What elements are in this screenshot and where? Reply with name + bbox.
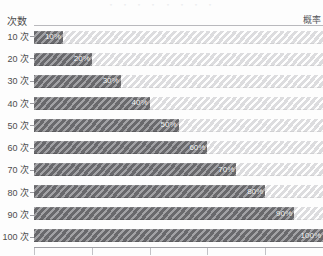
y-axis-tick-label: 30 次 <box>7 74 29 87</box>
bar-fill-segment: 20% <box>34 53 92 66</box>
x-tick-mark-icon <box>265 248 266 255</box>
bar-remainder-segment <box>294 207 323 220</box>
bar-value-label: 10% <box>45 33 63 41</box>
bar-remainder-segment <box>63 31 323 44</box>
bar-row: 60% <box>34 141 323 154</box>
y-axis-tick-labels: 10 次 20 次 30 次 40 次 50 次 60 次 70 次 80 次 … <box>0 25 34 248</box>
bar-remainder-segment <box>265 185 323 198</box>
bar-fill-segment: 90% <box>34 207 294 220</box>
y-axis-tick-label: 100 次 <box>2 230 29 243</box>
y-axis-tick: 90 次 <box>0 208 34 221</box>
y-axis-tick: 10 次 <box>0 30 34 43</box>
bar-fill-segment: 10% <box>34 31 63 44</box>
y-axis-tick: 40 次 <box>0 97 34 110</box>
bar-value-label: 50% <box>160 121 178 129</box>
y-axis-tick-label: 70 次 <box>7 163 29 176</box>
bar-row: 30% <box>34 75 323 88</box>
bar-fill-segment: 100% <box>34 229 323 242</box>
x-tick-mark-icon <box>150 248 151 255</box>
bar-remainder-segment <box>179 119 323 132</box>
y-axis-tick-label: 40 次 <box>7 97 29 110</box>
x-axis-ticks <box>34 248 323 256</box>
bar-value-label: 100% <box>301 232 323 240</box>
bar-remainder-segment <box>121 75 323 88</box>
bar-value-label: 40% <box>132 99 150 107</box>
bar-value-label: 30% <box>103 77 121 85</box>
bar-value-label: 90% <box>276 210 294 218</box>
bar-fill-segment: 40% <box>34 97 150 110</box>
y-axis-tick: 60 次 <box>0 141 34 154</box>
y-axis-tick: 20 次 <box>0 52 34 65</box>
y-axis-tick-label: 90 次 <box>7 208 29 221</box>
bar-row: 70% <box>34 163 323 176</box>
bar-value-label: 60% <box>189 144 207 152</box>
y-axis-tick-label: 50 次 <box>7 119 29 132</box>
bar-row: 90% <box>34 207 323 220</box>
bar-row: 40% <box>34 97 323 110</box>
y-axis-tick-label: 80 次 <box>7 186 29 199</box>
x-tick-mark-icon <box>92 248 93 255</box>
bar-row: 10% <box>34 31 323 44</box>
bar-remainder-segment <box>236 163 323 176</box>
y-axis-tick: 100 次 <box>0 230 34 243</box>
plot-area: 10% 20% 30% 40% 50% 60% <box>34 25 323 248</box>
bar-remainder-segment <box>207 141 323 154</box>
bar-fill-segment: 50% <box>34 119 179 132</box>
bar-value-label: 20% <box>74 55 92 63</box>
bar-value-label: 70% <box>218 166 236 174</box>
y-axis-tick: 80 次 <box>0 186 34 199</box>
x-tick-mark-icon <box>207 248 208 255</box>
x-tick-mark-icon <box>34 248 35 255</box>
bar-value-label: 80% <box>247 188 265 196</box>
bar-row: 100% <box>34 229 323 242</box>
chart-page: ・ ・ ・ ・ ・ ・ ・ ・ 次数 概率 10 次 20 次 30 次 40 … <box>0 0 323 256</box>
y-axis-tick: 50 次 <box>0 119 34 132</box>
y-axis-tick-label: 10 次 <box>7 30 29 43</box>
bar-fill-segment: 30% <box>34 75 121 88</box>
y-axis-tick-label: 60 次 <box>7 141 29 154</box>
bar-row: 20% <box>34 53 323 66</box>
y-axis-tick-label: 20 次 <box>7 52 29 65</box>
bar-fill-segment: 60% <box>34 141 207 154</box>
bar-remainder-segment <box>92 53 323 66</box>
bar-row: 50% <box>34 119 323 132</box>
bar-row: 80% <box>34 185 323 198</box>
bar-rows: 10% 20% 30% 40% 50% 60% <box>34 26 323 247</box>
y-axis-tick: 70 次 <box>0 163 34 176</box>
top-cropped-caption: ・ ・ ・ ・ ・ ・ ・ ・ <box>0 0 323 11</box>
bar-fill-segment: 80% <box>34 185 265 198</box>
bar-fill-segment: 70% <box>34 163 236 176</box>
y-axis-tick: 30 次 <box>0 74 34 87</box>
bar-remainder-segment <box>150 97 323 110</box>
